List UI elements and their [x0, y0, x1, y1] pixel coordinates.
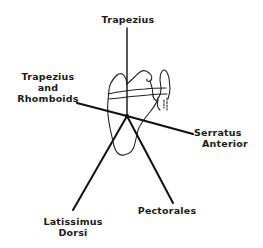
- label-line: Latissimus: [38, 216, 108, 227]
- pectorales-vector: [127, 116, 173, 203]
- force-vectors: [73, 28, 193, 210]
- trapezius-rhomboids-vector: [77, 103, 127, 116]
- label-pectorales: Pectorales: [136, 205, 198, 216]
- center-point: [125, 114, 129, 118]
- latissimus-dorsi-vector: [73, 116, 127, 210]
- label-line: and: [14, 82, 82, 93]
- label-line: Pectorales: [136, 205, 198, 216]
- scapula-force-diagram: [0, 0, 263, 248]
- label-trapezius: Trapezius: [97, 14, 159, 25]
- label-line: Trapezius: [14, 71, 82, 82]
- serratus-anterior-vector: [127, 116, 193, 134]
- label-trapezius-rhomboids: Trapezius and Rhomboids: [14, 71, 82, 104]
- label-line: Trapezius: [97, 14, 159, 25]
- label-line: Dorsi: [38, 227, 108, 238]
- label-line: Rhomboids: [14, 93, 82, 104]
- label-line: Serratus: [194, 127, 254, 138]
- label-line: Anterior: [194, 138, 254, 149]
- label-latissimus-dorsi: Latissimus Dorsi: [38, 216, 108, 238]
- label-serratus-anterior: Serratus Anterior: [194, 127, 254, 149]
